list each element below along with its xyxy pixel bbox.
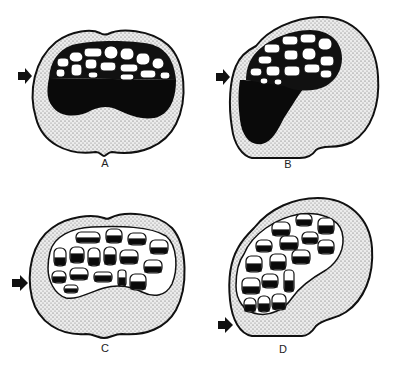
panel-a-label: A (101, 157, 109, 169)
arrow-right-icon (18, 68, 32, 84)
arrow-right-icon (12, 275, 28, 291)
figure-canvas: A B (0, 0, 394, 369)
panel-c: C (12, 214, 185, 354)
panel-d: D (218, 198, 372, 355)
arrow-right-icon (216, 69, 230, 85)
panel-a: A (18, 31, 184, 169)
arrow-right-icon (218, 317, 233, 333)
panel-b-label: B (284, 158, 291, 170)
panel-b: B (216, 17, 378, 170)
panel-d-label: D (279, 343, 287, 355)
panel-c-label: C (101, 342, 109, 354)
